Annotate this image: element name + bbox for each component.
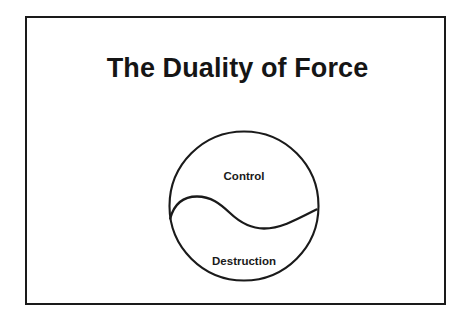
slide-frame: The Duality of Force Control Destruction [25, 16, 446, 305]
slide-root: The Duality of Force Control Destruction [0, 0, 469, 322]
region-label-destruction: Destruction [164, 255, 324, 267]
duality-diagram: Control Destruction [164, 125, 324, 287]
region-label-control: Control [164, 170, 324, 182]
page-title: The Duality of Force [27, 51, 448, 85]
